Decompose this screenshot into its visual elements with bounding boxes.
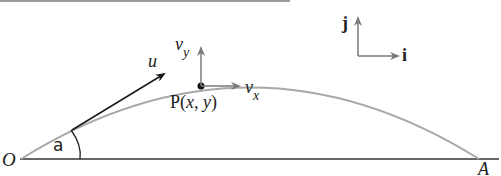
origin-label: O (2, 150, 16, 169)
unit-i-label: i (402, 46, 407, 64)
unit-j-label: j (342, 14, 348, 32)
vy-label: vy (175, 35, 189, 58)
angle-label: a (53, 137, 63, 154)
angle-arc (71, 130, 80, 159)
velocity-u-label: u (148, 52, 157, 70)
vx-label: vx (245, 78, 259, 101)
landing-label: A (478, 160, 489, 176)
point-p-label: P(x, y) (170, 93, 217, 111)
